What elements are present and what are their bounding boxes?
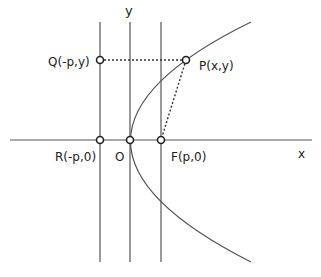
label-Q: Q(-p,y) bbox=[48, 55, 90, 69]
label-P: P(x,y) bbox=[199, 59, 234, 73]
parabola-diagram: y x Q(-p,y) P(x,y) R(-p,0) O F(p,0) bbox=[0, 0, 321, 277]
y-axis-label: y bbox=[125, 3, 133, 18]
label-F: F(p,0) bbox=[171, 150, 206, 164]
label-R: R(-p,0) bbox=[55, 150, 96, 164]
point-F bbox=[158, 137, 165, 144]
parabola-curve bbox=[131, 22, 252, 262]
x-axis-label: x bbox=[298, 147, 305, 161]
label-O: O bbox=[115, 150, 124, 164]
point-Q bbox=[97, 57, 104, 64]
point-R bbox=[97, 137, 104, 144]
point-P bbox=[183, 57, 190, 64]
segment-PF bbox=[161, 60, 186, 140]
point-O bbox=[127, 137, 134, 144]
